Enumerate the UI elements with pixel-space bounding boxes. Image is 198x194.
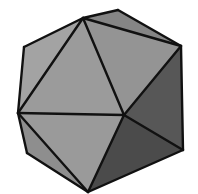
icosahedron-drawing [0,0,198,194]
icosahedron-figure [0,0,198,194]
